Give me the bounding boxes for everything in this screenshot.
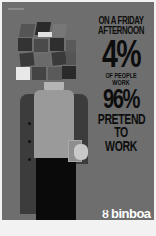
- jacket-button: [28, 158, 31, 161]
- brand-logo: ȣ binboa One night in town · vodka: [102, 206, 154, 220]
- pants: [36, 158, 76, 220]
- decorative-line: [8, 8, 24, 10]
- jacket-button: [28, 122, 31, 125]
- hand: [74, 144, 88, 160]
- jacket-button: [28, 140, 31, 143]
- bull-icon: ȣ: [102, 208, 109, 220]
- brand-name: binboa: [111, 206, 151, 220]
- person-illustration: [20, 82, 86, 220]
- stat-4-percent: 4%: [98, 36, 145, 72]
- headline: ON A FRIDAY AFTERNOON 4% OF PEOPLE WORK …: [90, 16, 152, 153]
- advertisement-poster: ON A FRIDAY AFTERNOON 4% OF PEOPLE WORK …: [2, 2, 154, 220]
- headline-line5: TO WORK: [98, 126, 145, 153]
- stat-96-percent: 96%: [99, 86, 144, 113]
- rubiks-cube-head: [16, 22, 76, 80]
